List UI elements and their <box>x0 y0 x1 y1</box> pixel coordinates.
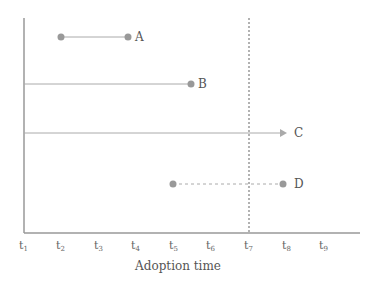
series-a: A <box>58 30 145 44</box>
tick-t6: t6 <box>206 239 215 253</box>
start-dot <box>58 34 65 41</box>
x-axis-label: Adoption time <box>134 259 221 273</box>
adoption-time-diagram: A B C D t1 t2 t3 t4 t5 t6 t7 t8 t9 Adopt… <box>0 0 377 286</box>
series-d: D <box>170 177 304 191</box>
tick-t3: t3 <box>94 239 103 253</box>
x-tick-labels: t1 t2 t3 t4 t5 t6 t7 t8 t9 <box>19 239 328 253</box>
series-label-d: D <box>294 177 304 191</box>
series-label-a: A <box>134 30 144 44</box>
arrow-icon <box>280 129 287 137</box>
tick-t5: t5 <box>169 239 178 253</box>
series-c: C <box>24 126 303 140</box>
series-label-b: B <box>198 77 207 91</box>
end-dot <box>188 81 195 88</box>
tick-t4: t4 <box>131 239 140 253</box>
series-b: B <box>24 77 207 91</box>
series-label-c: C <box>294 126 303 140</box>
tick-t2: t2 <box>56 239 65 253</box>
tick-t8: t8 <box>282 239 291 253</box>
start-dot <box>170 181 177 188</box>
tick-t9: t9 <box>319 239 328 253</box>
end-dot <box>125 34 132 41</box>
tick-t7: t7 <box>244 239 253 253</box>
tick-t1: t1 <box>19 239 28 253</box>
end-dot <box>280 181 287 188</box>
